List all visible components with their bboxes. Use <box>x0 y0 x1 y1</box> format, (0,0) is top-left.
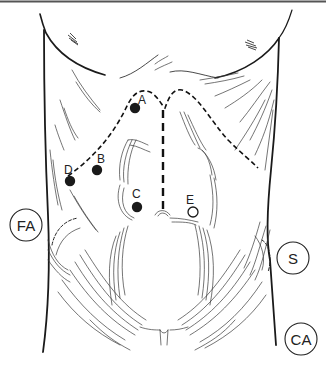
point-label: E <box>186 193 194 207</box>
region-label: FA <box>17 217 35 234</box>
point-C: C <box>132 187 142 212</box>
filled-dot-icon <box>132 202 142 212</box>
region-FA: FA <box>10 209 42 241</box>
point-label: B <box>97 152 105 166</box>
region-label: CA <box>291 331 312 348</box>
point-D: D <box>64 163 75 186</box>
torso-outline <box>40 10 292 352</box>
abdominal-diagram: A B C D E FA S CA <box>0 0 326 365</box>
point-E: E <box>186 193 198 217</box>
filled-dot-icon <box>65 176 75 186</box>
point-label: A <box>138 93 146 107</box>
open-circle-icon <box>188 207 198 217</box>
point-label: C <box>132 187 141 201</box>
region-label: S <box>288 250 298 267</box>
nipple-right-icon <box>245 40 257 50</box>
nipple-left-icon <box>68 33 78 45</box>
point-B: B <box>92 152 105 175</box>
region-S: S <box>277 242 309 274</box>
point-label: D <box>64 163 73 177</box>
point-A: A <box>130 93 146 113</box>
region-CA: CA <box>285 323 317 355</box>
muscle-hatching <box>48 56 274 350</box>
filled-dot-icon <box>92 165 102 175</box>
